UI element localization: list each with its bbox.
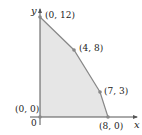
vertex-label: (8, 0)	[99, 121, 123, 131]
origin-label: 0	[31, 118, 37, 128]
vertex-point	[38, 115, 42, 119]
vertex-label: (7, 3)	[104, 86, 128, 96]
x-axis-label: x	[134, 119, 140, 130]
vertex-point	[98, 90, 102, 94]
feasible-region	[40, 17, 108, 117]
vertex-label: (0, 12)	[45, 10, 75, 20]
vertex-point	[72, 48, 76, 52]
y-axis-label: y	[30, 5, 37, 16]
vertex-label: (0, 0)	[15, 104, 39, 114]
y-axis-arrow-icon	[38, 8, 42, 13]
vertex-point	[106, 115, 110, 119]
feasible-region-diagram: y x 0 (0, 0) (0, 12) (4, 8) (7, 3) (8, 0…	[0, 0, 142, 135]
vertex-point	[38, 15, 42, 19]
vertex-label: (4, 8)	[79, 43, 103, 53]
